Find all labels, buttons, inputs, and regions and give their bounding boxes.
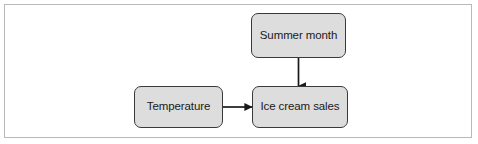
node-summer-month: Summer month xyxy=(251,13,346,58)
node-ice-cream-sales: Ice cream sales xyxy=(252,86,348,128)
node-summer-month-label: Summer month xyxy=(260,30,337,42)
edge-layer xyxy=(0,0,478,144)
node-temperature: Temperature xyxy=(134,86,223,128)
node-temperature-label: Temperature xyxy=(147,101,210,113)
causal-diagram: Summer month Temperature Ice cream sales xyxy=(0,0,478,144)
node-ice-cream-sales-label: Ice cream sales xyxy=(260,101,339,113)
